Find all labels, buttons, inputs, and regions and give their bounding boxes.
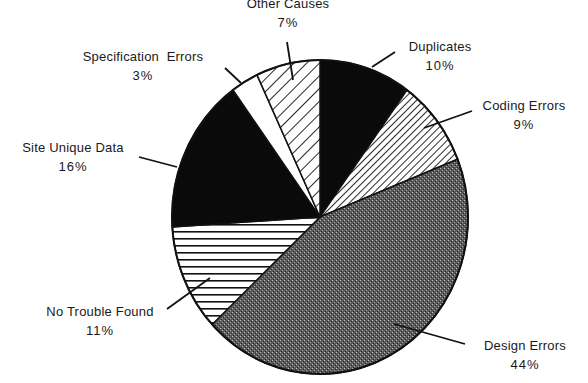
label-name: Design Errors xyxy=(484,338,566,353)
label-pct: 11% xyxy=(36,321,164,340)
label-no-trouble-found: No Trouble Found 11% xyxy=(36,302,164,340)
label-name: Specification Errors xyxy=(83,49,204,64)
label-pct: 10% xyxy=(398,56,482,75)
label-coding-errors: Coding Errors 9% xyxy=(474,96,574,134)
label-site-unique-data: Site Unique Data 16% xyxy=(10,138,136,176)
label-other-causes: Other Causes 7% xyxy=(230,0,346,32)
label-pct: 44% xyxy=(470,355,580,374)
label-name: Other Causes xyxy=(247,0,330,11)
label-design-errors: Design Errors 44% xyxy=(470,336,580,374)
label-duplicates: Duplicates 10% xyxy=(398,37,482,75)
label-pct: 16% xyxy=(10,157,136,176)
label-specification-errors: Specification Errors 3% xyxy=(63,47,223,85)
label-pct: 7% xyxy=(230,13,346,32)
label-name: Site Unique Data xyxy=(22,140,123,155)
label-pct: 3% xyxy=(63,66,223,85)
label-pct: 9% xyxy=(474,115,574,134)
label-name: No Trouble Found xyxy=(46,304,153,319)
label-name: Duplicates xyxy=(409,39,472,54)
label-name: Coding Errors xyxy=(483,98,566,113)
